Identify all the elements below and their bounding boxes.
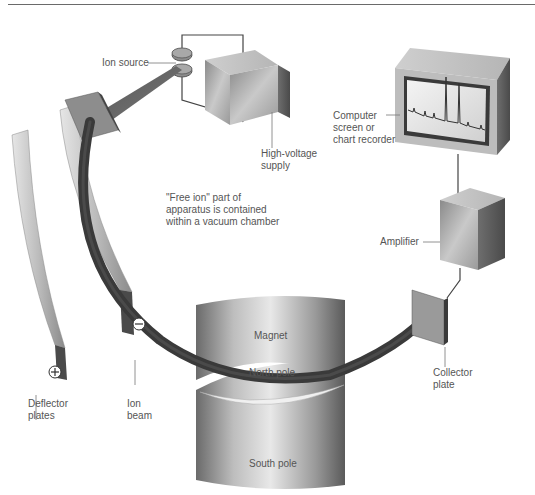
high-voltage-box (205, 50, 290, 125)
label-collector-plate: Collector plate (433, 367, 472, 391)
deflector-plates (12, 105, 134, 380)
label-computer-screen: Computer screen or chart recorder (333, 110, 395, 146)
collector-plate (412, 290, 448, 345)
mass-spectrometer-illustration (0, 0, 535, 495)
label-deflector-plates: Deflector plates (28, 398, 68, 422)
label-high-voltage-supply: High-voltage supply (261, 148, 317, 172)
label-south-pole: South pole (249, 458, 297, 470)
negative-terminal-icon (133, 318, 145, 330)
amplifier-box (440, 188, 505, 270)
amplifier-to-collector-wire (447, 268, 460, 298)
label-amplifier: Amplifier (380, 236, 419, 248)
label-free-ion-note: "Free ion" part of apparatus is containe… (166, 192, 279, 228)
computer-monitor (395, 48, 510, 155)
label-north-pole: North pole (249, 367, 295, 379)
label-ion-source: Ion source (102, 57, 149, 69)
positive-terminal-icon (49, 366, 61, 378)
label-magnet: Magnet (254, 330, 287, 342)
label-ion-beam: Ion beam (127, 398, 152, 422)
